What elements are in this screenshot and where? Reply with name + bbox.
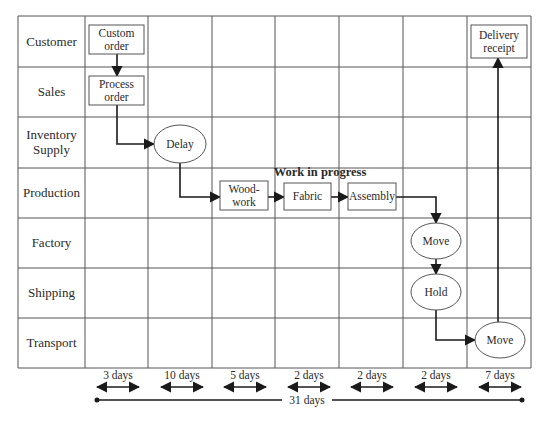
node-delay: Delay [154,125,206,163]
node-move-transport: Move [475,322,525,358]
lane-label: Shipping [28,285,75,300]
process-nodes: CustomorderProcessorderDelayWood-workFab… [89,25,527,358]
group-labels: Work in progress [274,165,367,179]
node-label: Hold [425,286,448,298]
flow-arrow [436,310,475,340]
duration-label: 7 days [485,369,515,382]
node-process-order: Processorder [89,76,144,105]
lane-label: Sales [38,84,65,99]
duration-segment: 2 days [415,369,457,387]
total-duration-label: 31 days [289,394,325,407]
duration-label: 10 days [164,369,200,382]
duration-segment: 5 days [224,369,266,387]
node-label: Move [487,334,514,346]
node-label: Move [423,235,450,247]
node-label: Delivery [479,29,519,42]
node-label: Fabric [293,190,322,202]
swimlane-grid [18,16,531,368]
node-label: work [232,196,256,208]
duration-segment: 2 days [288,369,330,387]
duration-label: 2 days [357,369,387,382]
lane-label: Supply [33,142,70,157]
duration-segment: 10 days [161,369,203,387]
node-wood-work: Wood-work [220,181,268,210]
node-label: order [104,91,128,103]
node-label: Custom [99,27,135,39]
lane-label: Production [23,185,81,200]
lane-label: Transport [26,335,76,350]
lane-label: Factory [32,235,72,250]
diagram-canvas: CustomerSalesInventorySupplyProductionFa… [0,0,548,422]
node-label: Assembly [349,190,395,203]
node-hold: Hold [411,274,461,310]
duration-label: 5 days [230,369,260,382]
duration-label: 2 days [294,369,324,382]
duration-segment: 3 days [97,369,139,387]
total-duration: 31 days [95,394,525,407]
lane-label: Inventory [26,127,77,142]
timeline: 3 days10 days5 days2 days2 days2 days7 d… [95,369,525,407]
duration-label: 3 days [103,369,133,382]
duration-segment: 7 days [479,369,521,387]
node-label: Process [99,78,135,90]
lane-labels: CustomerSalesInventorySupplyProductionFa… [23,34,81,351]
flow-arrow [396,197,436,223]
node-custom-order: Customorder [89,25,144,54]
end-dot [520,398,525,403]
node-label: receipt [483,42,515,55]
duration-segment: 2 days [351,369,393,387]
node-delivery-receipt: Deliveryreceipt [471,25,527,58]
start-dot [95,398,100,403]
value-stream-diagram: CustomerSalesInventorySupplyProductionFa… [0,0,548,422]
node-move-factory: Move [411,223,461,259]
node-fabric: Fabric [284,183,331,210]
node-label: Delay [166,138,194,151]
duration-label: 2 days [421,369,451,382]
lane-label: Customer [26,34,77,49]
work-in-progress-label: Work in progress [274,165,367,179]
node-label: Wood- [228,183,259,195]
node-label: order [104,40,128,52]
node-assembly: Assembly [348,183,396,210]
